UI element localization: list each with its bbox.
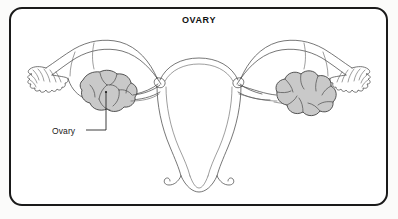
ovary-label: Ovary (52, 126, 75, 136)
right-fimbriae (330, 67, 370, 93)
left-fimbriae (28, 67, 68, 93)
left-ovary (80, 70, 137, 111)
right-ovary (276, 71, 336, 116)
figure-page: OVARY (0, 0, 398, 219)
anatomy-illustration (0, 0, 398, 219)
uterus (154, 58, 244, 192)
